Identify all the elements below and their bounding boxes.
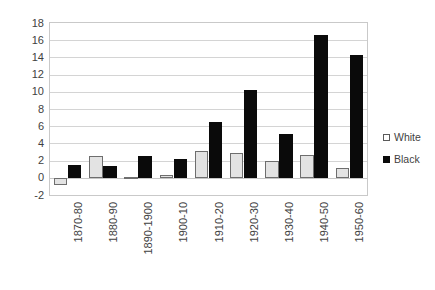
y-axis-tick-label: 12: [0, 69, 44, 80]
x-axis-tick-label: 1950-60: [354, 202, 365, 242]
legend-item-white[interactable]: White: [383, 131, 421, 143]
bar-black: [138, 156, 152, 178]
bar-group: [50, 23, 85, 195]
y-axis-tick-label: 8: [0, 104, 44, 115]
bar-white: [89, 156, 103, 178]
x-axis-tick-label: 1870-80: [73, 202, 84, 242]
bar-black: [68, 165, 82, 178]
y-axis-tick-label: 2: [0, 155, 44, 166]
bar-white: [336, 168, 350, 177]
bar-group: [226, 23, 261, 195]
bar-black: [279, 134, 293, 178]
bar-black: [103, 166, 117, 178]
x-axis-tick-label: 1940-50: [319, 202, 330, 242]
bar-white: [195, 151, 209, 178]
bar-white: [54, 178, 68, 185]
x-axis-tick-label: 1890-1900: [143, 202, 154, 255]
bar-black: [174, 159, 188, 178]
y-axis-tick-label: 14: [0, 52, 44, 63]
bar-white: [265, 161, 279, 177]
y-axis-tick-label: -2: [0, 190, 44, 201]
bar-group: [191, 23, 226, 195]
x-axis-tick-label: 1880-90: [108, 202, 119, 242]
bar-black: [209, 122, 223, 178]
y-axis-tick-label: 0: [0, 172, 44, 183]
legend-label: Black: [394, 153, 420, 165]
bar-groups: [50, 23, 367, 195]
bar-group: [332, 23, 367, 195]
bar-group: [85, 23, 120, 195]
x-axis-tick-label: 1930-40: [284, 202, 295, 242]
bar-group: [156, 23, 191, 195]
bar-black: [244, 90, 258, 178]
y-axis-tick-label: 6: [0, 121, 44, 132]
x-axis-tick-label: 1920-30: [249, 202, 260, 242]
bar-white: [124, 177, 138, 179]
bar-black: [350, 55, 364, 178]
legend-swatch-icon: [383, 156, 390, 163]
bar-chart: -2024681012141618 1870-801880-901890-190…: [0, 0, 435, 290]
bar-group: [120, 23, 155, 195]
x-axis-tick-label: 1910-20: [214, 202, 225, 242]
y-axis-tick-label: 10: [0, 86, 44, 97]
legend-label: White: [394, 131, 421, 143]
legend: WhiteBlack: [383, 131, 421, 175]
y-axis-tick-label: 18: [0, 18, 44, 29]
bar-white: [230, 153, 244, 178]
x-axis: 1870-801880-901890-19001900-101910-20192…: [50, 198, 367, 288]
bar-black: [314, 35, 328, 178]
x-axis-tick-label: 1900-10: [178, 202, 189, 242]
legend-item-black[interactable]: Black: [383, 153, 421, 165]
y-axis-tick-label: 4: [0, 138, 44, 149]
y-axis-tick-label: 16: [0, 35, 44, 46]
bar-group: [261, 23, 296, 195]
bar-white: [300, 155, 314, 177]
bar-group: [297, 23, 332, 195]
bar-white: [160, 175, 174, 178]
legend-swatch-icon: [383, 134, 390, 141]
